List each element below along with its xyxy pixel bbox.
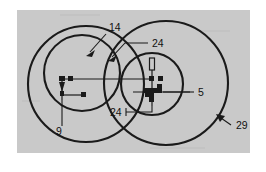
right-square-marker-left <box>149 76 154 81</box>
reference-label-24-bottom: 24 <box>110 106 122 118</box>
right-upper-stem-part <box>150 58 155 70</box>
reference-label-29: 29 <box>236 119 248 131</box>
left-square-marker-upper <box>68 76 73 81</box>
figure-root: 14 24 24 5 9 29 <box>0 0 266 172</box>
technical-drawing-canvas: 14 24 24 5 9 29 <box>0 0 266 172</box>
right-square-marker-right <box>158 76 163 81</box>
reference-label-14: 14 <box>109 21 121 33</box>
reference-label-9: 9 <box>56 125 62 137</box>
reference-label-24-top: 24 <box>152 37 164 49</box>
reference-label-5: 5 <box>198 86 204 98</box>
left-square-marker-lower <box>81 92 86 97</box>
